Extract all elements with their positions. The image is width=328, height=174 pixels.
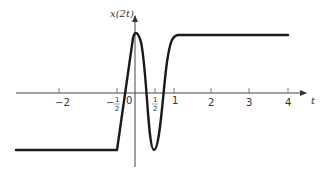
signal-plot: −2 − 1 2 0 1 2 1 2 3 4 t x(2t) xyxy=(0,0,328,174)
signal-curve xyxy=(16,33,288,150)
tick-label-half-den: 2 xyxy=(153,105,157,113)
y-axis-label: x(2t) xyxy=(110,8,134,19)
tick-label-0: 0 xyxy=(126,95,132,106)
tick-label-1: 1 xyxy=(172,95,178,106)
tick-label-neg-half-num: 1 xyxy=(115,96,119,104)
tick-label-half-num: 1 xyxy=(153,96,157,104)
tick-label-4: 4 xyxy=(285,97,291,108)
x-axis-label: t xyxy=(311,95,316,106)
tick-label-neg2: −2 xyxy=(55,97,70,108)
tick-label-3: 3 xyxy=(246,97,252,108)
x-ticks xyxy=(59,88,288,93)
tick-label-neg-half-sign: − xyxy=(106,97,114,108)
tick-label-neg-half-den: 2 xyxy=(115,105,119,113)
tick-label-2: 2 xyxy=(208,97,214,108)
